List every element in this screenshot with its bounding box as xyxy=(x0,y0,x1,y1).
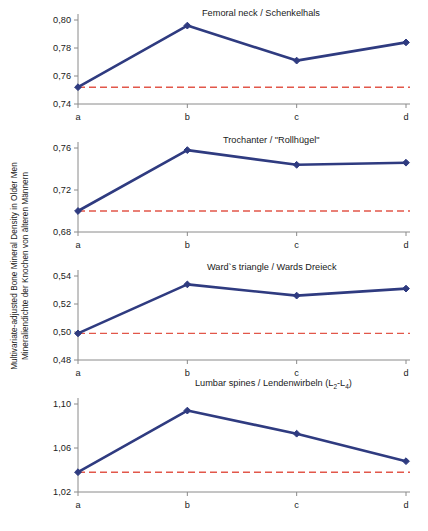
panel-title-lumbar-spines: Lumbar spines / Lendenwirbeln (L2-L4) xyxy=(195,378,352,390)
x-tick-label-wards-triangle-c: c xyxy=(294,368,299,378)
y-axis-label: Multivariate-adjusted Bone Mineral Densi… xyxy=(0,0,40,531)
data-point-lumbar-spines-d xyxy=(403,458,410,465)
x-tick-label-lumbar-spines-c: c xyxy=(294,500,299,510)
y-tick-label-trochanter-0: 0,76 xyxy=(53,143,71,153)
panel-trochanter: Trochanter / "Rollhügel"0,760,720,68abcd xyxy=(40,136,428,260)
panel-lumbar-spines: Lumbar spines / Lendenwirbeln (L2-L4)1,1… xyxy=(40,392,428,520)
y-axis-label-line-german: Mineraliendichte der Knochen von älteren… xyxy=(20,162,31,370)
data-point-femoral-neck-d xyxy=(403,39,410,46)
x-tick-label-lumbar-spines-b: b xyxy=(185,500,190,510)
y-axis-label-line-english: Multivariate-adjusted Bone Mineral Densi… xyxy=(9,162,20,370)
plot-area-lumbar-spines: 1,101,061,02abcd xyxy=(40,392,428,520)
x-tick-label-femoral-neck-b: b xyxy=(185,112,190,122)
data-point-trochanter-d xyxy=(403,159,410,166)
data-line-femoral-neck xyxy=(78,26,406,88)
y-tick-label-femoral-neck-3: 0,74 xyxy=(53,99,71,109)
data-line-trochanter xyxy=(78,150,406,211)
y-tick-label-femoral-neck-1: 0,78 xyxy=(53,43,71,53)
x-tick-label-trochanter-d: d xyxy=(403,240,408,250)
plot-area-trochanter: 0,760,720,68abcd xyxy=(40,136,428,260)
x-tick-label-femoral-neck-a: a xyxy=(75,112,81,122)
y-tick-label-wards-triangle-1: 0,52 xyxy=(53,299,71,309)
y-tick-label-femoral-neck-0: 0,80 xyxy=(53,15,71,25)
x-tick-label-trochanter-a: a xyxy=(75,240,81,250)
y-tick-label-lumbar-spines-0: 1,10 xyxy=(53,399,71,409)
x-tick-label-wards-triangle-a: a xyxy=(75,368,81,378)
bmd-multi-panel-figure: Multivariate-adjusted Bone Mineral Densi… xyxy=(0,0,428,531)
x-tick-label-femoral-neck-c: c xyxy=(294,112,299,122)
y-tick-label-lumbar-spines-1: 1,06 xyxy=(53,443,71,453)
panel-wards-triangle: Ward`s triangle / Wards Dreieck0,540,520… xyxy=(40,264,428,388)
data-point-wards-triangle-c xyxy=(293,292,300,299)
y-tick-label-trochanter-1: 0,72 xyxy=(53,185,71,195)
data-line-lumbar-spines xyxy=(78,411,406,473)
plot-area-wards-triangle: 0,540,520,500,48abcd xyxy=(40,264,428,388)
data-point-lumbar-spines-c xyxy=(293,430,300,437)
y-tick-label-wards-triangle-3: 0,48 xyxy=(53,355,71,365)
data-point-femoral-neck-c xyxy=(293,57,300,64)
y-tick-label-trochanter-2: 0,68 xyxy=(53,227,71,237)
panel-femoral-neck: Femoral neck / Schenkelhals0,800,780,760… xyxy=(40,8,428,132)
x-tick-label-trochanter-c: c xyxy=(294,240,299,250)
x-tick-label-wards-triangle-b: b xyxy=(185,368,190,378)
data-point-wards-triangle-d xyxy=(403,285,410,292)
y-tick-label-wards-triangle-2: 0,50 xyxy=(53,327,71,337)
data-point-trochanter-c xyxy=(293,161,300,168)
x-tick-label-lumbar-spines-a: a xyxy=(75,500,81,510)
x-tick-label-lumbar-spines-d: d xyxy=(403,500,408,510)
x-tick-label-wards-triangle-d: d xyxy=(403,368,408,378)
x-tick-label-trochanter-b: b xyxy=(185,240,190,250)
y-tick-label-wards-triangle-0: 0,54 xyxy=(53,271,71,281)
data-line-wards-triangle xyxy=(78,284,406,333)
y-tick-label-femoral-neck-2: 0,76 xyxy=(53,71,71,81)
plot-area-femoral-neck: 0,800,780,760,74abcd xyxy=(40,8,428,132)
x-tick-label-femoral-neck-d: d xyxy=(403,112,408,122)
y-tick-label-lumbar-spines-2: 1,02 xyxy=(53,487,71,497)
